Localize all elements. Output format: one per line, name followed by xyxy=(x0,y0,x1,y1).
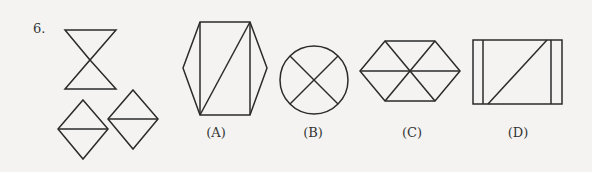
option-b-label[interactable]: (B) xyxy=(303,125,323,140)
question-number: 6. xyxy=(33,21,45,36)
option-b-figure[interactable] xyxy=(280,46,348,114)
option-a-label[interactable]: (A) xyxy=(206,125,226,140)
diamond-piece-right xyxy=(108,90,158,149)
diamond-piece-left xyxy=(58,100,108,159)
figure-canvas: 6. (A) (B) (C) (D) xyxy=(0,0,592,172)
hourglass-piece xyxy=(65,30,116,89)
option-d-label[interactable]: (D) xyxy=(508,125,529,140)
option-c-figure[interactable] xyxy=(360,41,460,101)
option-c-label[interactable]: (C) xyxy=(402,125,422,140)
option-a-figure[interactable] xyxy=(183,22,267,115)
option-d-figure[interactable] xyxy=(473,40,562,104)
